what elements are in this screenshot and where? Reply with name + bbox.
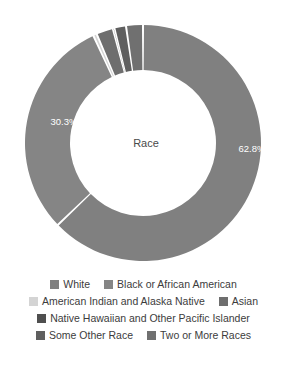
race-donut-chart: 62.8% 30.3% Race WhiteBlack or African A… bbox=[0, 0, 287, 375]
legend-item-asian[interactable]: Asian bbox=[219, 295, 258, 307]
legend-swatch-icon bbox=[219, 297, 228, 306]
legend-row: Some Other RaceTwo or More Races bbox=[36, 327, 251, 343]
legend-swatch-icon bbox=[37, 314, 46, 323]
chart-legend: WhiteBlack or African AmericanAmerican I… bbox=[0, 276, 287, 343]
legend-item-label: Two or More Races bbox=[160, 329, 251, 341]
legend-item-label: American Indian and Alaska Native bbox=[42, 295, 205, 307]
legend-swatch-icon bbox=[104, 280, 113, 289]
legend-item-white[interactable]: White bbox=[50, 278, 90, 290]
legend-item-black-or-african-american[interactable]: Black or African American bbox=[104, 278, 237, 290]
legend-row: Native Hawaiian and Other Pacific Island… bbox=[37, 310, 250, 326]
legend-swatch-icon bbox=[50, 280, 59, 289]
legend-swatch-icon bbox=[29, 297, 38, 306]
legend-item-native-hawaiian-and-other-pacific-islander[interactable]: Native Hawaiian and Other Pacific Island… bbox=[37, 312, 250, 324]
legend-row: WhiteBlack or African American bbox=[50, 276, 236, 292]
legend-item-label: Black or African American bbox=[117, 278, 237, 290]
donut-slice-black-or-african-american[interactable] bbox=[25, 36, 112, 224]
legend-swatch-icon bbox=[147, 331, 156, 340]
slice-label-white: 62.8% bbox=[239, 143, 266, 154]
legend-row: American Indian and Alaska NativeAsian bbox=[29, 293, 258, 309]
legend-item-two-or-more-races[interactable]: Two or More Races bbox=[147, 329, 251, 341]
legend-item-label: White bbox=[63, 278, 90, 290]
donut-plot-area: 62.8% 30.3% Race bbox=[0, 0, 287, 280]
legend-item-some-other-race[interactable]: Some Other Race bbox=[36, 329, 133, 341]
legend-item-label: Native Hawaiian and Other Pacific Island… bbox=[50, 312, 250, 324]
chart-center-label: Race bbox=[133, 137, 159, 149]
legend-item-label: Asian bbox=[232, 295, 258, 307]
legend-item-american-indian-and-alaska-native[interactable]: American Indian and Alaska Native bbox=[29, 295, 205, 307]
donut-svg: 62.8% 30.3% Race bbox=[0, 0, 287, 280]
slice-label-black-or-african-american: 30.3% bbox=[51, 116, 78, 127]
legend-item-label: Some Other Race bbox=[49, 329, 133, 341]
legend-swatch-icon bbox=[36, 331, 45, 340]
